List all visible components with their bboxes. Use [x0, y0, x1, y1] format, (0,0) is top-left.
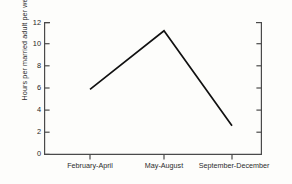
- y-tick-label-4: 4: [37, 106, 41, 113]
- chart-figure: Hours per married adult per week: [0, 0, 292, 184]
- chart-canvas: [44, 22, 262, 155]
- y-tick-label-8: 8: [37, 62, 41, 69]
- y-axis-ticks: [45, 23, 50, 155]
- y-tick-label-0: 0: [37, 151, 41, 158]
- y-axis-title: Hours per married adult per week: [20, 0, 29, 116]
- data-line-series-1: [90, 31, 232, 126]
- x-axis-ticks: [90, 154, 232, 159]
- y-tick-label-10: 10: [33, 40, 41, 47]
- x-tick-label-may-august: May-August: [145, 162, 183, 169]
- y-tick-label-2: 2: [37, 128, 41, 135]
- x-tick-label-february-april: February-April: [67, 162, 113, 169]
- y-tick-label-6: 6: [37, 84, 41, 91]
- x-tick-label-september-december: September-December: [199, 162, 270, 169]
- y-tick-label-12: 12: [33, 19, 41, 26]
- plot-area: 0 2 4 6 8 10 12 February-April May-Augus…: [44, 22, 262, 155]
- right-axis-ticks: [256, 44, 261, 133]
